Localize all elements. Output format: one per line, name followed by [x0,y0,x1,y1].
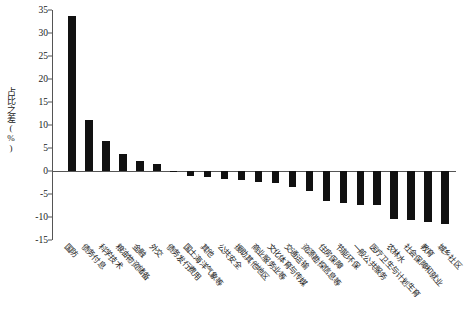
bar [306,171,314,191]
bar [68,16,76,171]
bar [373,171,381,205]
bar [390,171,398,219]
y-tick-label: 25 [39,51,53,61]
bar [170,171,178,172]
bar [85,120,93,171]
bar [238,171,246,180]
bar [424,171,432,222]
bar [153,164,161,171]
y-tick-label: -15 [35,235,52,245]
x-tick-label: 城乡社区 [435,242,463,271]
bar [221,171,229,179]
bar [187,171,195,176]
bar [323,171,331,201]
bar [136,161,144,171]
x-tick-label: 国防 [62,242,79,259]
x-tick-label: 外交 [147,242,164,259]
y-tick-label: -10 [35,212,52,222]
bar [204,171,212,177]
y-tick-label: 15 [39,97,53,107]
y-axis-line [52,10,53,240]
bar [102,141,110,171]
bar [340,171,348,203]
y-tick-label: -5 [40,189,52,199]
bar [441,171,449,224]
bar [289,171,297,187]
plot-area: 35302520151050-5-10-15 [52,10,456,240]
y-axis-title: 占比之差(%) [2,60,18,180]
y-tick-label: 35 [39,5,53,15]
bar-chart: 占比之差(%) 35302520151050-5-10-15 国防债务付息科学技… [0,0,466,336]
y-tick-label: 10 [39,120,53,130]
bar [255,171,263,182]
bar [272,171,280,183]
y-tick-label: 30 [39,28,53,38]
y-tick-label: 0 [43,166,52,176]
x-axis-labels: 国防债务付息科学技术粮油物资储备金融外交债务发行费用国土海洋气象等其他公共安全援… [52,240,466,336]
y-tick-label: 5 [43,143,52,153]
bar [357,171,365,205]
y-tick-label: 20 [39,74,53,84]
bar [119,154,127,171]
bar [407,171,415,220]
